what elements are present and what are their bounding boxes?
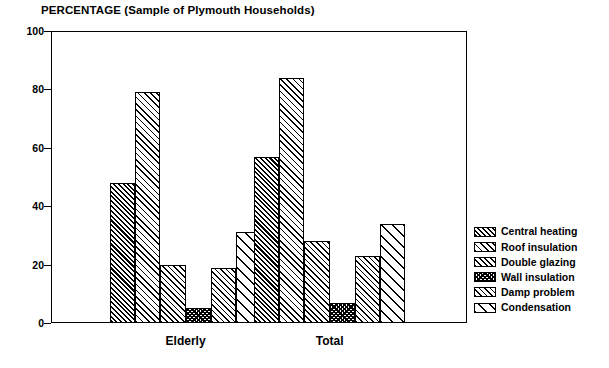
- legend-item-label: Condensation: [501, 302, 571, 313]
- y-tick-label-40: 40: [32, 200, 44, 212]
- legend-item-label: Double glazing: [501, 257, 576, 268]
- legend-item[interactable]: Wall insulation: [474, 270, 609, 285]
- y-axis: 020406080100: [0, 0, 44, 368]
- legend-item-label: Roof insulation: [501, 242, 577, 253]
- bar-chart: PERCENTAGE (Sample of Plymouth Household…: [0, 0, 609, 368]
- bar: [110, 183, 135, 323]
- y-tick-label-100: 100: [26, 25, 44, 37]
- bar: [160, 265, 185, 323]
- y-tick-mark-20: [44, 265, 51, 266]
- chart-title: PERCENTAGE (Sample of Plymouth Household…: [41, 4, 315, 16]
- bar: [254, 157, 279, 323]
- legend-item[interactable]: Damp problem: [474, 285, 609, 300]
- y-tick-mark-100: [44, 31, 51, 32]
- y-tick-mark-40: [44, 206, 51, 207]
- bars-layer: [51, 31, 467, 323]
- y-tick-mark-60: [44, 148, 51, 149]
- legend-item[interactable]: Condensation: [474, 300, 609, 315]
- bar: [304, 241, 329, 323]
- legend-item[interactable]: Central heating: [474, 224, 609, 239]
- bar: [186, 308, 211, 323]
- legend-item-label: Wall insulation: [501, 272, 575, 283]
- legend-swatch-icon: [474, 303, 496, 313]
- y-tick-mark-0: [44, 323, 51, 324]
- y-tick-label-20: 20: [32, 259, 44, 271]
- y-tick-label-80: 80: [32, 83, 44, 95]
- legend-swatch-icon: [474, 272, 496, 282]
- legend-swatch-icon: [474, 287, 496, 297]
- y-tick-label-60: 60: [32, 142, 44, 154]
- bar: [355, 256, 380, 323]
- bar: [330, 303, 355, 323]
- legend-item-label: Damp problem: [501, 287, 575, 298]
- bar: [211, 268, 236, 323]
- bar: [135, 92, 160, 323]
- legend-swatch-icon: [474, 227, 496, 237]
- y-tick-mark-80: [44, 89, 51, 90]
- x-category-label-elderly: Elderly: [166, 334, 206, 348]
- legend-item[interactable]: Roof insulation: [474, 239, 609, 254]
- bar: [380, 224, 405, 323]
- legend-item[interactable]: Double glazing: [474, 254, 609, 269]
- bar: [279, 78, 304, 323]
- legend: Central heatingRoof insulationDouble gla…: [474, 224, 609, 315]
- legend-swatch-icon: [474, 257, 496, 267]
- x-category-label-total: Total: [316, 334, 344, 348]
- legend-item-label: Central heating: [501, 226, 577, 237]
- legend-swatch-icon: [474, 242, 496, 252]
